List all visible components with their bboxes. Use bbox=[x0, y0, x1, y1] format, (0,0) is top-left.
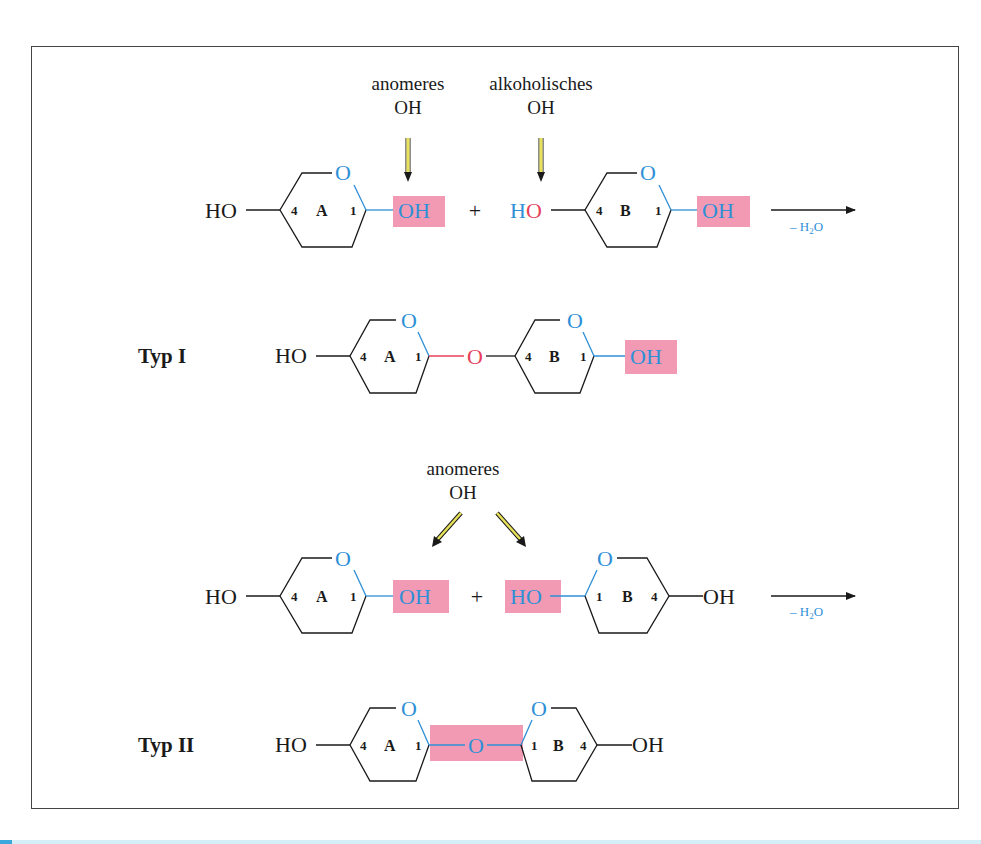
ring-label-a: A bbox=[316, 588, 328, 605]
free-anomeric-oh: OH bbox=[630, 344, 662, 369]
glycosidic-oxygen: O bbox=[467, 344, 483, 369]
ring-oxygen-b: O bbox=[640, 160, 656, 185]
c4-label: 4 bbox=[291, 589, 298, 604]
type-2-title: Typ II bbox=[138, 733, 194, 757]
ring-label-b: B bbox=[553, 737, 564, 754]
c1-label: 1 bbox=[580, 349, 587, 364]
product-type-1: Typ I HO O 4 A 1 O O 4 B 1 OH bbox=[138, 308, 677, 393]
reaction-1: anomeres OH alkoholisches OH HO O 4 A 1 bbox=[205, 73, 855, 247]
ring-label-b: B bbox=[622, 588, 633, 605]
ring-oxygen-b: O bbox=[531, 696, 547, 721]
hydroxyl-c4-b: OH bbox=[703, 584, 735, 609]
pyranose-ring-a: O 4 A 1 bbox=[280, 160, 366, 247]
c4-label: 4 bbox=[360, 738, 367, 753]
yellow-arrow-icon bbox=[537, 138, 545, 182]
water-elimination-label: – H2O bbox=[789, 219, 823, 236]
ring-oxygen-b: O bbox=[597, 546, 613, 571]
pyranose-ring-a: O 4 A 1 bbox=[350, 308, 429, 393]
ring-label-b: B bbox=[549, 348, 560, 365]
ring-label-a: A bbox=[316, 202, 328, 219]
glycosidic-oxygen: O bbox=[468, 733, 484, 758]
hydroxyl-c4-b: OH bbox=[632, 732, 664, 757]
c1-label: 1 bbox=[350, 203, 357, 218]
c4-label: 4 bbox=[596, 203, 603, 218]
anomeric-ho-b: HO bbox=[510, 584, 542, 609]
anomeric-oh-a: OH bbox=[398, 198, 430, 223]
label-anomeric-oh-line2: OH bbox=[449, 482, 477, 503]
label-anomeric-oh-line2: OH bbox=[394, 97, 422, 118]
ring-oxygen-a: O bbox=[335, 160, 351, 185]
plus-sign: + bbox=[469, 198, 481, 223]
pyranose-ring-a: O 4 A 1 bbox=[350, 696, 429, 781]
water-elimination-label: – H2O bbox=[789, 604, 823, 621]
pyranose-ring-b: O 4 B 1 bbox=[585, 160, 671, 247]
c1-label: 1 bbox=[531, 738, 538, 753]
label-alcoholic-oh-line1: alkoholisches bbox=[489, 73, 592, 94]
c4-label: 4 bbox=[291, 203, 298, 218]
label-alcoholic-oh-line2: OH bbox=[527, 97, 555, 118]
c1-label: 1 bbox=[415, 738, 422, 753]
ring-oxygen-a: O bbox=[335, 546, 351, 571]
alcoholic-oh-b: HO bbox=[510, 198, 542, 223]
c1-label: 1 bbox=[415, 349, 422, 364]
c4-label: 4 bbox=[580, 738, 587, 753]
product-type-2: Typ II HO O 4 A 1 O O 1 B 4 OH bbox=[138, 696, 664, 781]
c1-label: 1 bbox=[655, 203, 662, 218]
pyranose-ring-b: O 4 B 1 bbox=[515, 308, 594, 393]
disaccharide-diagram: anomeres OH alkoholisches OH HO O 4 A 1 bbox=[0, 0, 981, 844]
c1-label: 1 bbox=[350, 589, 357, 604]
hydroxyl-c4-a: HO bbox=[205, 584, 237, 609]
ring-oxygen-a: O bbox=[401, 308, 417, 333]
type-1-title: Typ I bbox=[138, 344, 186, 368]
c4-label: 4 bbox=[525, 349, 532, 364]
yellow-arrow-icon bbox=[497, 513, 526, 547]
ring-label-a: A bbox=[384, 737, 396, 754]
pyranose-ring-b: O 1 B 4 bbox=[585, 546, 669, 633]
pyranose-ring-a: O 4 A 1 bbox=[280, 546, 366, 633]
hydroxyl-c4-a: HO bbox=[275, 343, 307, 368]
hydroxyl-c4-a: HO bbox=[275, 732, 307, 757]
c4-label: 4 bbox=[360, 349, 367, 364]
c4-label: 4 bbox=[651, 589, 658, 604]
yellow-arrow-icon bbox=[432, 513, 461, 547]
label-anomeric-oh-line1: anomeres bbox=[427, 458, 500, 479]
reaction-2: anomeres OH HO O 4 A 1 OH + HO bbox=[205, 458, 855, 633]
hydroxyl-c4-a: HO bbox=[205, 198, 237, 223]
anomeric-oh-b: OH bbox=[702, 198, 734, 223]
c1-label: 1 bbox=[596, 589, 603, 604]
yellow-arrow-icon bbox=[404, 138, 412, 182]
ring-oxygen-b: O bbox=[567, 308, 583, 333]
ring-label-a: A bbox=[384, 348, 396, 365]
label-anomeric-oh-line1: anomeres bbox=[372, 73, 445, 94]
ring-oxygen-a: O bbox=[401, 696, 417, 721]
anomeric-oh-a: OH bbox=[399, 584, 431, 609]
plus-sign: + bbox=[471, 584, 483, 609]
ring-label-b: B bbox=[620, 202, 631, 219]
pyranose-ring-b: O 1 B 4 bbox=[521, 696, 597, 781]
